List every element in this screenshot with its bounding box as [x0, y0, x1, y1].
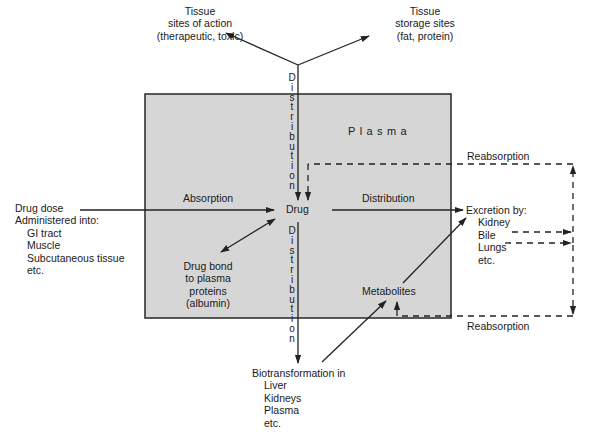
arrow-to-tissue-storage-sites: [298, 36, 369, 65]
route-subcutaneous: Subcutaneous tissue: [15, 252, 124, 264]
excretion-etc: etc.: [466, 254, 527, 266]
absorption-label: Absorption: [183, 192, 233, 204]
drug-bond-line-2: to plasma: [170, 272, 246, 284]
drug-dose-title: Drug dose: [15, 202, 124, 214]
drug-bond-line-3: proteins: [170, 285, 246, 297]
route-muscle: Muscle: [15, 239, 124, 251]
biotransformation-label: Biotransformation in Liver Kidneys Plasm…: [252, 367, 345, 429]
tissue-action-line-2: sites of action: [136, 17, 264, 29]
drug-node-label: Drug: [286, 203, 309, 215]
excretion-bile: Bile: [466, 229, 527, 241]
plasma-label: Plasma: [348, 125, 411, 137]
biotransformation-title: Biotransformation in: [252, 367, 345, 379]
drug-bond-label: Drug bond to plasma proteins (albumin): [170, 260, 246, 310]
excretion-lungs: Lungs: [466, 241, 527, 253]
reabsorption-bottom-label: Reabsorption: [467, 320, 529, 332]
excretion-title: Excretion by:: [466, 204, 527, 216]
metabolites-label: Metabolites: [362, 285, 416, 297]
excretion-kidney: Kidney: [466, 216, 527, 228]
distribution-vertical-top-label: Distribution: [287, 73, 297, 191]
route-etc: etc.: [15, 264, 124, 276]
tissue-action-line-1: Tissue: [136, 5, 264, 17]
tissue-storage-line-3: (fat, protein): [375, 30, 475, 42]
biotransformation-kidneys: Kidneys: [252, 392, 345, 404]
tissue-storage-line-1: Tissue: [375, 5, 475, 17]
tissue-storage-line-2: storage sites: [375, 17, 475, 29]
tissue-sites-of-action-label: Tissue sites of action (therapeutic, tox…: [136, 5, 264, 42]
tissue-storage-sites-label: Tissue storage sites (fat, protein): [375, 5, 475, 42]
drug-bond-line-1: Drug bond: [170, 260, 246, 272]
distribution-vertical-bottom-label: Distribution: [287, 226, 297, 344]
tissue-action-line-3: (therapeutic, toxic): [136, 30, 264, 42]
biotransformation-plasma: Plasma: [252, 404, 345, 416]
reabsorption-top-label: Reabsorption: [467, 150, 529, 162]
drug-dose-label: Drug dose Administered into: GI tract Mu…: [15, 202, 124, 276]
drug-bond-line-4: (albumin): [170, 297, 246, 309]
excretion-label: Excretion by: Kidney Bile Lungs etc.: [466, 204, 527, 266]
biotransformation-etc: etc.: [252, 417, 345, 429]
biotransformation-liver: Liver: [252, 379, 345, 391]
administered-into-label: Administered into:: [15, 214, 124, 226]
route-gi-tract: GI tract: [15, 227, 124, 239]
distribution-horizontal-label: Distribution: [362, 192, 415, 204]
